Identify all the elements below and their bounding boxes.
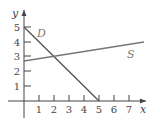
x-ticks bbox=[39, 95, 129, 101]
supply-label: S bbox=[127, 48, 135, 61]
x-tick-label: 1 bbox=[36, 104, 42, 115]
x-axis-label: x bbox=[140, 103, 147, 116]
y-axis-label: y bbox=[11, 7, 19, 20]
y-tick-labels: 1 2 3 4 5 bbox=[14, 22, 20, 92]
y-tick-label: 2 bbox=[14, 66, 20, 77]
y-ticks bbox=[24, 27, 31, 86]
x-tick-label: 4 bbox=[81, 104, 87, 115]
demand-line bbox=[24, 27, 99, 101]
demand-label: D bbox=[36, 27, 46, 40]
y-tick-label: 5 bbox=[14, 22, 20, 33]
y-tick-label: 1 bbox=[14, 81, 20, 92]
y-tick-label: 3 bbox=[14, 51, 20, 62]
x-tick-label: 6 bbox=[111, 104, 117, 115]
y-axis-arrow-icon bbox=[22, 10, 27, 16]
chart: 1 2 3 4 5 6 7 x 1 2 3 4 5 y D S bbox=[0, 0, 151, 125]
x-tick-labels: 1 2 3 4 5 6 7 bbox=[36, 104, 132, 115]
x-tick-label: 3 bbox=[66, 104, 72, 115]
x-tick-label: 7 bbox=[126, 104, 132, 115]
x-tick-label: 5 bbox=[96, 104, 102, 115]
x-tick-label: 2 bbox=[51, 104, 57, 115]
y-tick-label: 4 bbox=[14, 37, 20, 48]
